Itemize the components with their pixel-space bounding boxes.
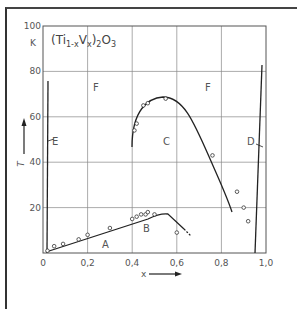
phase-boundaries [46, 65, 263, 253]
region-label-d: D [247, 136, 255, 147]
x-tick-label: 0 [40, 258, 46, 268]
data-point [135, 215, 139, 219]
region-label-f-left: F [93, 82, 99, 93]
chart-title: (Ti1-xVx)2O3 [51, 33, 116, 49]
data-point [135, 122, 139, 126]
data-point [46, 249, 50, 253]
x-tick-label: 1,0 [259, 258, 274, 268]
region-label-f-right: F [205, 82, 211, 93]
region-label-e: E [52, 136, 58, 147]
y-ticks: 20406080100 [24, 21, 41, 213]
y-axis-label: T [16, 160, 26, 167]
x-ticks: 00,20,40,60,81,0 [40, 258, 273, 268]
data-point [86, 233, 90, 237]
data-point [211, 154, 215, 158]
y-unit: K [30, 38, 37, 48]
data-point [242, 206, 246, 210]
plot-frame [43, 26, 266, 253]
data-point [146, 101, 150, 105]
y-tick-label: 60 [30, 112, 42, 122]
region-label-b: B [143, 223, 150, 234]
y-tick-label: 40 [30, 157, 42, 167]
y-tick-label: 80 [30, 66, 42, 76]
data-point [139, 213, 143, 217]
data-point [77, 238, 81, 242]
y-tick-label: 100 [24, 21, 41, 31]
data-point [235, 190, 239, 194]
y-tick-label: 20 [30, 203, 42, 213]
x-tick-label: 0,6 [170, 258, 185, 268]
data-point [130, 217, 134, 221]
x-tick-label: 0,4 [125, 258, 140, 268]
data-point [108, 226, 112, 230]
region-label-a: A [102, 239, 109, 250]
data-point [153, 213, 157, 217]
x-axis-label: x [141, 269, 147, 279]
x-tick-label: 0,8 [214, 258, 229, 268]
data-point [164, 97, 168, 101]
grid [43, 26, 266, 253]
region-label-c: C [163, 136, 170, 147]
data-point [246, 219, 250, 223]
data-point [175, 231, 179, 235]
data-point [52, 244, 56, 248]
data-point [133, 129, 137, 133]
data-point [142, 104, 146, 108]
data-point [146, 210, 150, 214]
x-tick-label: 0,2 [80, 258, 94, 268]
data-point [61, 242, 65, 246]
